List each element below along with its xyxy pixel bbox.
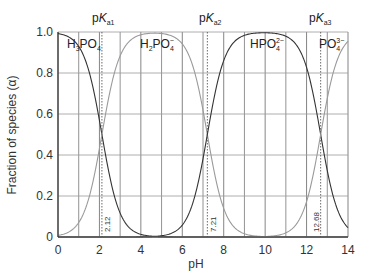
- x-tick-label: 6: [179, 243, 186, 257]
- y-tick-label: 0.6: [36, 107, 53, 121]
- pka2-label: pKa2: [199, 11, 222, 26]
- x-axis-label: pH: [188, 257, 203, 271]
- x-tick-label: 14: [341, 243, 355, 257]
- x-tick-label: 10: [258, 243, 272, 257]
- speciation-chart: 02468101214 00.20.40.60.81.0 pH Fraction…: [0, 0, 374, 275]
- x-tick-label: 2: [96, 243, 103, 257]
- y-tick-labels: 00.20.40.60.81.0: [36, 25, 53, 244]
- pka1-label: pKa1: [92, 11, 115, 26]
- x-tick-label: 12: [300, 243, 314, 257]
- species-label-h3po4: H3PO4: [67, 37, 101, 52]
- y-axis-label: Fraction of species (α): [5, 76, 19, 195]
- species-label-po4: PO43−: [319, 37, 344, 52]
- pka3-label: pKa3: [309, 11, 332, 26]
- species-label-hpo4: HPO42−: [250, 37, 284, 52]
- pka3-value: 12.68: [312, 211, 321, 232]
- x-tick-label: 0: [55, 243, 62, 257]
- x-tick-label: 4: [138, 243, 145, 257]
- x-tick-label: 8: [220, 243, 227, 257]
- y-tick-label: 1.0: [36, 25, 53, 39]
- y-tick-label: 0: [46, 230, 53, 244]
- species-label-h2po4: H2PO4−: [140, 37, 174, 52]
- y-tick-label: 0.4: [36, 148, 53, 162]
- y-tick-label: 0.2: [36, 189, 53, 203]
- pka-lines: [102, 32, 321, 237]
- y-tick-label: 0.8: [36, 66, 53, 80]
- pka1-value: 2.12: [103, 216, 112, 232]
- pka2-value: 7.21: [209, 216, 218, 232]
- x-tick-labels: 02468101214: [55, 243, 355, 257]
